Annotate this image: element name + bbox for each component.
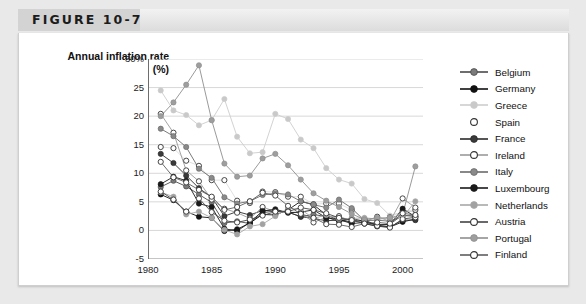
y-tick-label: 20: [110, 110, 144, 121]
legend-marker-icon: [457, 248, 491, 262]
legend-item-austria[interactable]: Austria: [457, 213, 549, 230]
legend-item-greece[interactable]: Greece: [457, 97, 549, 114]
legend-label: Spain: [495, 117, 520, 128]
y-tick-label: -5: [110, 253, 144, 264]
legend-item-portugal[interactable]: Portugal: [457, 230, 549, 247]
y-tick-label: 30%: [110, 53, 144, 64]
legend-marker-icon: [457, 215, 491, 229]
legend-label: Ireland: [495, 150, 525, 161]
legend-label: Belgium: [495, 67, 530, 78]
legend-item-germany[interactable]: Germany: [457, 81, 549, 98]
legend-marker-icon: [457, 198, 491, 212]
y-tick-label: 10: [110, 167, 144, 178]
legend-label: Austria: [495, 216, 526, 227]
legend-marker-icon: [457, 181, 491, 195]
legend-label: Greece: [495, 100, 527, 111]
x-tick-label: 1990: [255, 264, 295, 275]
legend-label: Germany: [495, 83, 535, 94]
legend-marker-icon: [457, 65, 491, 79]
x-tick-label: 1980: [128, 264, 168, 275]
legend-marker-icon: [457, 98, 491, 112]
chart-legend: BelgiumGermanyGreeceSpainFranceIrelandIt…: [457, 64, 549, 263]
x-tick-label: 1985: [192, 264, 232, 275]
figure-card: Annual inflation rate (%) 30%2520151050-…: [18, 33, 569, 286]
legend-label: France: [495, 133, 526, 144]
chart-plot-area: [148, 59, 423, 259]
legend-marker-icon: [457, 231, 491, 245]
y-tick-label: 0: [110, 224, 144, 235]
x-tick-label: 1995: [319, 264, 359, 275]
legend-marker-icon: [457, 132, 491, 146]
legend-marker-icon: [457, 165, 491, 179]
y-tick-label: 25: [110, 82, 144, 93]
legend-label: Finland: [495, 249, 527, 260]
chart-svg: [148, 59, 423, 259]
legend-marker-icon: [457, 148, 491, 162]
x-tick-label: 2000: [383, 264, 423, 275]
figure-label: FIGURE 10-7: [32, 12, 143, 27]
legend-item-spain[interactable]: Spain: [457, 114, 549, 131]
legend-label: Luxembourg: [495, 183, 549, 194]
y-tick-label: 5: [110, 196, 144, 207]
legend-label: Italy: [495, 166, 513, 177]
legend-item-ireland[interactable]: Ireland: [457, 147, 549, 164]
legend-marker-icon: [457, 115, 491, 129]
legend-item-italy[interactable]: Italy: [457, 164, 549, 181]
legend-label: Portugal: [495, 233, 532, 244]
legend-item-finland[interactable]: Finland: [457, 247, 549, 264]
legend-item-belgium[interactable]: Belgium: [457, 64, 549, 81]
legend-marker-icon: [457, 82, 491, 96]
legend-item-luxembourg[interactable]: Luxembourg: [457, 180, 549, 197]
legend-label: Netherlands: [495, 200, 548, 211]
y-tick-label: 15: [110, 139, 144, 150]
figure-container: FIGURE 10-7 Annual inflation rate (%) 30…: [0, 0, 586, 304]
legend-item-netherlands[interactable]: Netherlands: [457, 197, 549, 214]
legend-item-france[interactable]: France: [457, 130, 549, 147]
